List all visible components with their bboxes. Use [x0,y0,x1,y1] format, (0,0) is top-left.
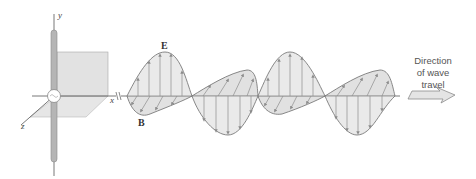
caption-line-1: Direction [402,55,464,67]
xy-plane [57,52,108,96]
axis-break-icon [116,92,121,100]
magnetic-field-label: B [138,117,145,128]
x-axis-label: x [110,95,114,105]
y-axis-label: y [58,10,62,20]
z-axis-label: z [21,121,25,131]
direction-caption: Direction of wave travel [402,55,464,91]
caption-line-2: of wave [402,67,464,79]
electric-field-label: E [161,40,168,51]
caption-line-3: travel [402,79,464,91]
